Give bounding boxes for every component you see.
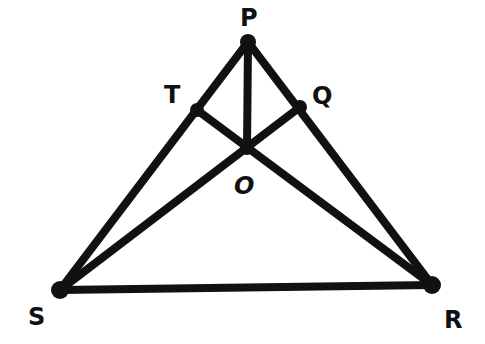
point-T: [190, 103, 204, 117]
triangle-diagram: P T Q O S R: [0, 0, 485, 344]
label-Q: Q: [312, 82, 332, 110]
segment-PR: [248, 42, 432, 285]
point-O: [240, 141, 254, 155]
segment-PO: [247, 42, 248, 148]
label-T: T: [164, 81, 181, 109]
point-R: [423, 276, 441, 294]
point-S: [51, 281, 69, 299]
segment-SR: [60, 285, 432, 290]
segments-group: [60, 42, 432, 290]
label-P: P: [240, 4, 258, 32]
label-O: O: [234, 172, 254, 200]
point-Q: [293, 100, 307, 114]
point-P: [240, 34, 256, 50]
label-S: S: [28, 303, 45, 331]
label-R: R: [444, 306, 462, 334]
